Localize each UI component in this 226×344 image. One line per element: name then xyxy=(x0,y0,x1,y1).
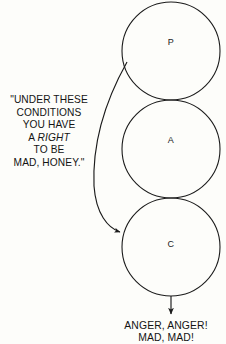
ego-state-circle-adult xyxy=(122,100,220,198)
quote-line-5: TO BE xyxy=(0,144,98,157)
quote-line-4: A RIGHT xyxy=(0,132,98,145)
ego-state-label-parent: P xyxy=(161,37,181,47)
diagram-canvas: P A C "UNDER THESE CONDITIONS YOU HAVE A… xyxy=(0,0,226,344)
ego-state-circle-parent xyxy=(122,2,220,100)
ego-state-label-adult: A xyxy=(161,135,181,145)
quote-line-3: YOU HAVE xyxy=(0,119,98,132)
quote-line-4-prefix: A xyxy=(28,132,37,143)
outcome-line-1: ANGER, ANGER! xyxy=(106,320,226,332)
quote-text-block: "UNDER THESE CONDITIONS YOU HAVE A RIGHT… xyxy=(0,94,98,170)
outcome-text-block: ANGER, ANGER! MAD, MAD! xyxy=(106,320,226,344)
quote-emphasis-word: RIGHT xyxy=(38,132,70,143)
quote-line-1: "UNDER THESE xyxy=(0,94,98,107)
quote-line-2: CONDITIONS xyxy=(0,107,98,120)
quote-line-6: MAD, HONEY." xyxy=(0,157,98,170)
ego-state-label-child: C xyxy=(161,239,181,249)
outcome-line-2: MAD, MAD! xyxy=(106,332,226,344)
ego-state-diagram xyxy=(0,0,226,344)
